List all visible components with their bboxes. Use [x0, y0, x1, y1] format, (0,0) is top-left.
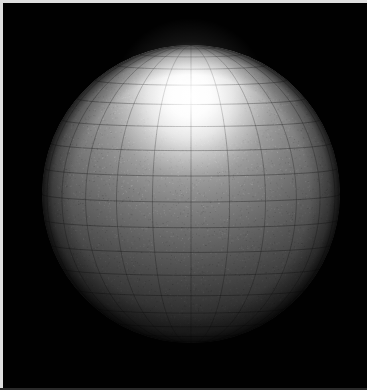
window-border-top [0, 0, 367, 3]
noise-dots [42, 46, 340, 343]
sphere-object [42, 45, 340, 343]
sphere-noise-layer [42, 45, 340, 343]
surface-dither-noise [42, 45, 340, 343]
window-border-left [0, 0, 3, 390]
render-window [0, 0, 367, 390]
scene-viewport [0, 0, 367, 390]
